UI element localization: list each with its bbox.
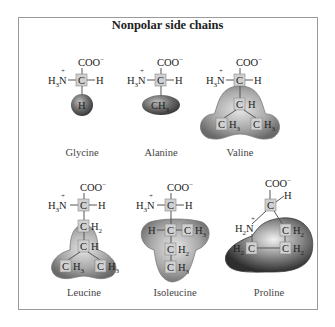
svg-text:COO−: COO−: [236, 56, 262, 68]
svg-text:H: H: [248, 99, 256, 110]
svg-text:H3N: H3N: [48, 200, 67, 214]
svg-text:C: C: [80, 241, 87, 252]
svg-text:C: C: [267, 200, 274, 211]
label-proline: Proline: [254, 287, 285, 298]
svg-text:+: +: [140, 67, 144, 75]
label-leucine: Leucine: [67, 287, 101, 298]
glycine-structure: COO− H3N + C H H Glycine: [48, 56, 104, 158]
svg-text:H: H: [98, 200, 106, 211]
svg-text:C: C: [282, 243, 289, 254]
carboxylate-group: COO−: [78, 56, 104, 68]
svg-text:+: +: [219, 67, 223, 75]
svg-text:C: C: [236, 75, 243, 86]
leucine-structure: COO− H3N + C H C H2 C H C H3 C H3 Leucin…: [48, 181, 120, 298]
isoleucine-structure: COO− H3N + C H H C C H3 C H2 C H3 Isoleu…: [136, 181, 209, 298]
label-isoleucine: Isoleucine: [153, 287, 196, 298]
svg-text:C: C: [167, 244, 174, 255]
svg-text:+: +: [61, 192, 65, 200]
svg-text:C: C: [184, 225, 191, 236]
svg-text:C: C: [167, 262, 174, 273]
svg-text:COO−: COO−: [265, 177, 291, 189]
svg-text:C: C: [282, 225, 289, 236]
svg-text:H: H: [96, 75, 104, 86]
svg-text:H2N: H2N: [235, 223, 254, 237]
amine-group: H3N: [48, 75, 67, 89]
svg-text:C: C: [167, 200, 174, 211]
svg-text:H: H: [284, 190, 292, 201]
svg-text:C: C: [80, 200, 87, 211]
label-glycine: Glycine: [65, 147, 99, 158]
svg-text:+: +: [61, 67, 65, 75]
valine-structure: COO− H3N + C H C H C H3 C H3 Valine: [200, 56, 279, 158]
svg-text:C: C: [78, 75, 85, 86]
svg-text:C: C: [157, 75, 164, 86]
svg-text:C: C: [167, 225, 174, 236]
label-alanine: Alanine: [144, 147, 178, 158]
svg-text:C: C: [80, 221, 87, 232]
svg-text:H: H: [254, 75, 262, 86]
svg-text:H: H: [91, 241, 99, 252]
svg-text:H3N: H3N: [206, 75, 225, 89]
svg-text:COO−: COO−: [157, 56, 183, 68]
svg-text:C: C: [218, 119, 225, 130]
svg-text:+: +: [149, 192, 153, 200]
svg-text:C: C: [62, 261, 69, 272]
alanine-structure: COO− H3N + C H CH3 Alanine: [127, 56, 183, 158]
svg-text:C: C: [253, 119, 260, 130]
label-valine: Valine: [227, 147, 254, 158]
amino-acid-diagram: COO− H3N + C H H Glycine COO− H3N + C H …: [0, 0, 335, 327]
svg-text:H3N: H3N: [127, 75, 146, 89]
svg-text:H3N: H3N: [136, 200, 155, 214]
svg-text:H: H: [78, 100, 86, 111]
svg-text:COO−: COO−: [80, 181, 106, 193]
svg-text:H: H: [175, 75, 183, 86]
svg-text:COO−: COO−: [167, 181, 193, 193]
svg-text:C: C: [97, 261, 104, 272]
svg-text:H: H: [185, 200, 193, 211]
svg-text:C: C: [236, 99, 243, 110]
proline-structure: COO− H C H2N + C H2 C H2 C H2 Proline: [225, 177, 312, 298]
svg-text:C: C: [248, 243, 255, 254]
svg-text:H: H: [148, 225, 156, 236]
svg-text:+: +: [251, 215, 255, 223]
